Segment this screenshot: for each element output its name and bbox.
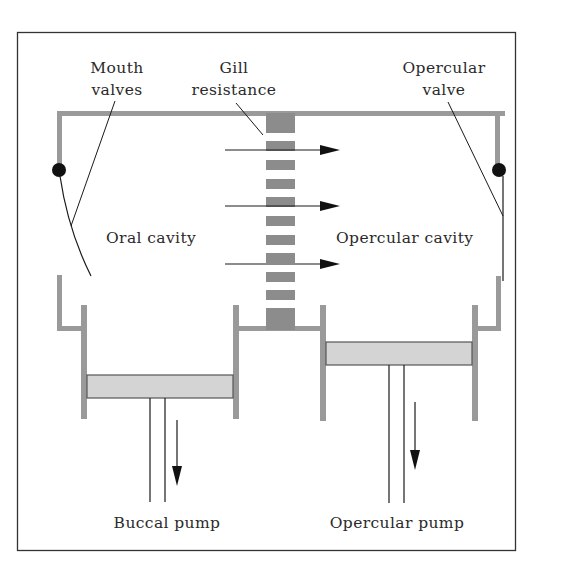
buccal-cylinder-left-wall (81, 305, 87, 419)
opercular-valve-leader (448, 102, 503, 216)
buccal-down-arrow (172, 420, 182, 486)
opercular-cylinder-left-wall (320, 305, 326, 421)
mouth-valve-flap (60, 176, 91, 276)
buccal-pump-label: Buccal pump (114, 514, 221, 532)
top-wall (57, 111, 213, 116)
left-wall-upper (57, 111, 62, 167)
gill-resistance-label-line2: resistance (192, 81, 277, 99)
mouth-valves-label-line1: Mouth (90, 59, 143, 77)
opercular-piston (326, 342, 472, 365)
gill-resistance-leader (236, 103, 263, 135)
opercular-valve-label-line2: valve (422, 81, 466, 99)
right-ledge (475, 326, 501, 331)
right-wall-upper (495, 111, 500, 167)
gill-resistance-label-line1: Gill (220, 59, 249, 77)
gill-ventilation-diagram: Mouth valves Gill resistance Opercular v… (0, 0, 577, 585)
left-wall-lower (57, 275, 62, 331)
oral-cavity-label: Oral cavity (106, 229, 196, 247)
buccal-piston (87, 375, 233, 398)
opercular-pump-label: Opercular pump (330, 514, 465, 532)
gill-resistance-bars (266, 113, 295, 330)
right-wall-lower (496, 276, 501, 331)
opercular-valve-hinge (492, 163, 506, 177)
buccal-cylinder-right-wall (233, 305, 239, 419)
mouth-valves-label-line2: valves (90, 81, 142, 99)
mouth-valve-hinge (52, 163, 66, 177)
opercular-valve-label-line1: Opercular (402, 59, 485, 77)
left-ledge (57, 326, 83, 331)
mouth-valves-leader (71, 101, 115, 226)
opercular-down-arrow (410, 402, 420, 470)
opercular-cylinder-right-wall (472, 305, 478, 421)
top-wall-right (292, 111, 505, 116)
opercular-cavity-label: Opercular cavity (336, 229, 473, 247)
